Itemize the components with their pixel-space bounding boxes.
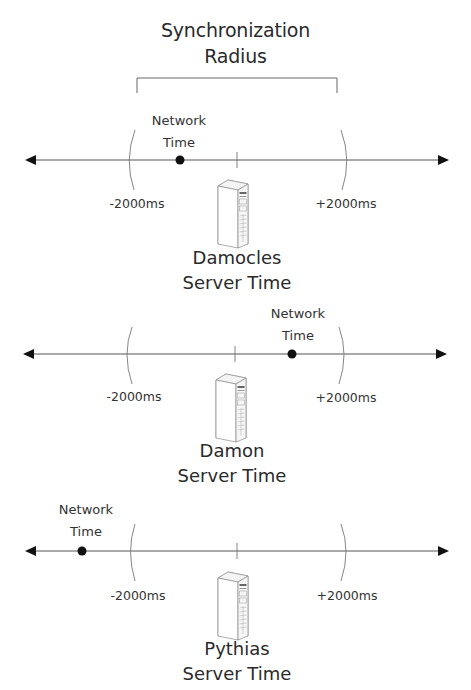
server-tower-icon — [216, 374, 246, 442]
server-tower-icon — [218, 180, 248, 248]
minus-2000ms-label: -2000ms — [110, 588, 165, 603]
sync-radius-bracket — [137, 78, 337, 93]
server-label-damon: Damon Server Time — [178, 438, 287, 488]
network-time-label: Network Time — [271, 303, 325, 347]
network-time-dot — [288, 350, 297, 359]
minus-2000ms-label: -2000ms — [106, 389, 161, 404]
left-arrow-icon — [25, 546, 36, 556]
network-time-dot — [78, 547, 87, 556]
plus-2000ms-label: +2000ms — [316, 390, 377, 405]
diagram-canvas — [0, 0, 471, 690]
plus-radius-arc — [339, 327, 344, 384]
server-label-pythias: Pythias Server Time — [183, 636, 292, 686]
server-tower-icon — [218, 572, 248, 640]
network-time-dot — [176, 156, 185, 165]
plus-radius-arc — [341, 524, 346, 581]
timeline-damon — [23, 327, 447, 442]
right-arrow-icon — [438, 546, 449, 556]
plus-2000ms-label: +2000ms — [317, 588, 378, 603]
timeline-damocles — [25, 130, 449, 248]
plus-2000ms-label: +2000ms — [316, 196, 377, 211]
network-time-label: Network Time — [59, 499, 113, 543]
left-arrow-icon — [25, 155, 36, 165]
server-label-damocles: Damocles Server Time — [183, 245, 292, 295]
right-arrow-icon — [436, 349, 447, 359]
right-arrow-icon — [438, 155, 449, 165]
network-time-label: Network Time — [152, 110, 206, 154]
minus-2000ms-label: -2000ms — [109, 196, 164, 211]
left-arrow-icon — [23, 349, 34, 359]
minus-radius-arc — [127, 327, 132, 384]
minus-radius-arc — [131, 524, 136, 581]
